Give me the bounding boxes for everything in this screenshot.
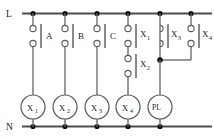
contact-X4-label: X — [202, 29, 209, 39]
contact-X4-upper-terminal — [188, 25, 194, 31]
contact-A-lower-terminal — [30, 40, 36, 46]
contact-B-upper-terminal — [62, 25, 68, 31]
ladder-schematic-svg: L N A X 1 — [0, 0, 214, 137]
contact-X2-label: X — [140, 59, 147, 69]
lamp-PL[interactable]: PL — [148, 95, 172, 119]
coil-X2[interactable]: X 2 — [53, 95, 77, 119]
contact-A[interactable]: A — [30, 24, 53, 48]
contact-X1-lower-terminal — [125, 40, 131, 46]
coil-X1-sub: 1 — [35, 108, 38, 114]
contact-X3-nc[interactable]: X 3 — [160, 24, 181, 48]
contact-X3-sub: 3 — [178, 35, 181, 41]
rung-b: B X 2 — [53, 14, 84, 127]
rail-label-L: L — [6, 9, 12, 19]
coil-X4-label: X — [122, 103, 128, 113]
coil-X2-sub: 2 — [67, 108, 70, 114]
contact-X4-lower-terminal — [188, 40, 194, 46]
rung-x4: X 1 X 2 X 4 — [116, 14, 150, 127]
rung-a: A X 1 — [21, 14, 53, 127]
contact-X4-no[interactable]: X 4 — [188, 24, 212, 48]
contact-X2[interactable]: X 2 — [125, 54, 150, 78]
rung-c: C X 3 — [85, 14, 116, 127]
contact-X2-sub: 2 — [147, 65, 150, 71]
coil-X4[interactable]: X 4 — [116, 95, 140, 119]
contact-X2-lower-terminal — [125, 70, 131, 76]
contact-X1-upper-terminal — [125, 25, 131, 31]
contact-X1[interactable]: X 1 — [125, 24, 150, 48]
contact-X3-label: X — [171, 29, 178, 39]
contact-B[interactable]: B — [62, 24, 84, 48]
rung-pl: X 3 X 4 PL — [148, 14, 212, 127]
contact-C[interactable]: C — [94, 24, 116, 48]
coil-X2-label: X — [59, 103, 65, 113]
contact-A-label: A — [46, 31, 53, 41]
contact-B-lower-terminal — [62, 40, 68, 46]
contact-B-label: B — [78, 31, 84, 41]
coil-X1-label: X — [27, 103, 33, 113]
contact-X4-sub: 4 — [209, 35, 212, 41]
contact-X2-upper-terminal — [125, 55, 131, 61]
rail-label-N: N — [6, 122, 13, 132]
coil-X3-label: X — [91, 103, 97, 113]
contact-X1-sub: 1 — [147, 35, 150, 41]
coil-X4-sub: 4 — [130, 108, 133, 114]
ladder-diagram: L N A X 1 — [0, 0, 214, 137]
lamp-PL-label: PL — [152, 103, 161, 112]
contact-A-upper-terminal — [30, 25, 36, 31]
contact-C-lower-terminal — [94, 40, 100, 46]
contact-C-upper-terminal — [94, 25, 100, 31]
coil-X3-sub: 3 — [99, 108, 102, 114]
coil-X3[interactable]: X 3 — [85, 95, 109, 119]
coil-X1[interactable]: X 1 — [21, 95, 45, 119]
contact-X1-label: X — [140, 29, 147, 39]
contact-C-label: C — [110, 31, 116, 41]
